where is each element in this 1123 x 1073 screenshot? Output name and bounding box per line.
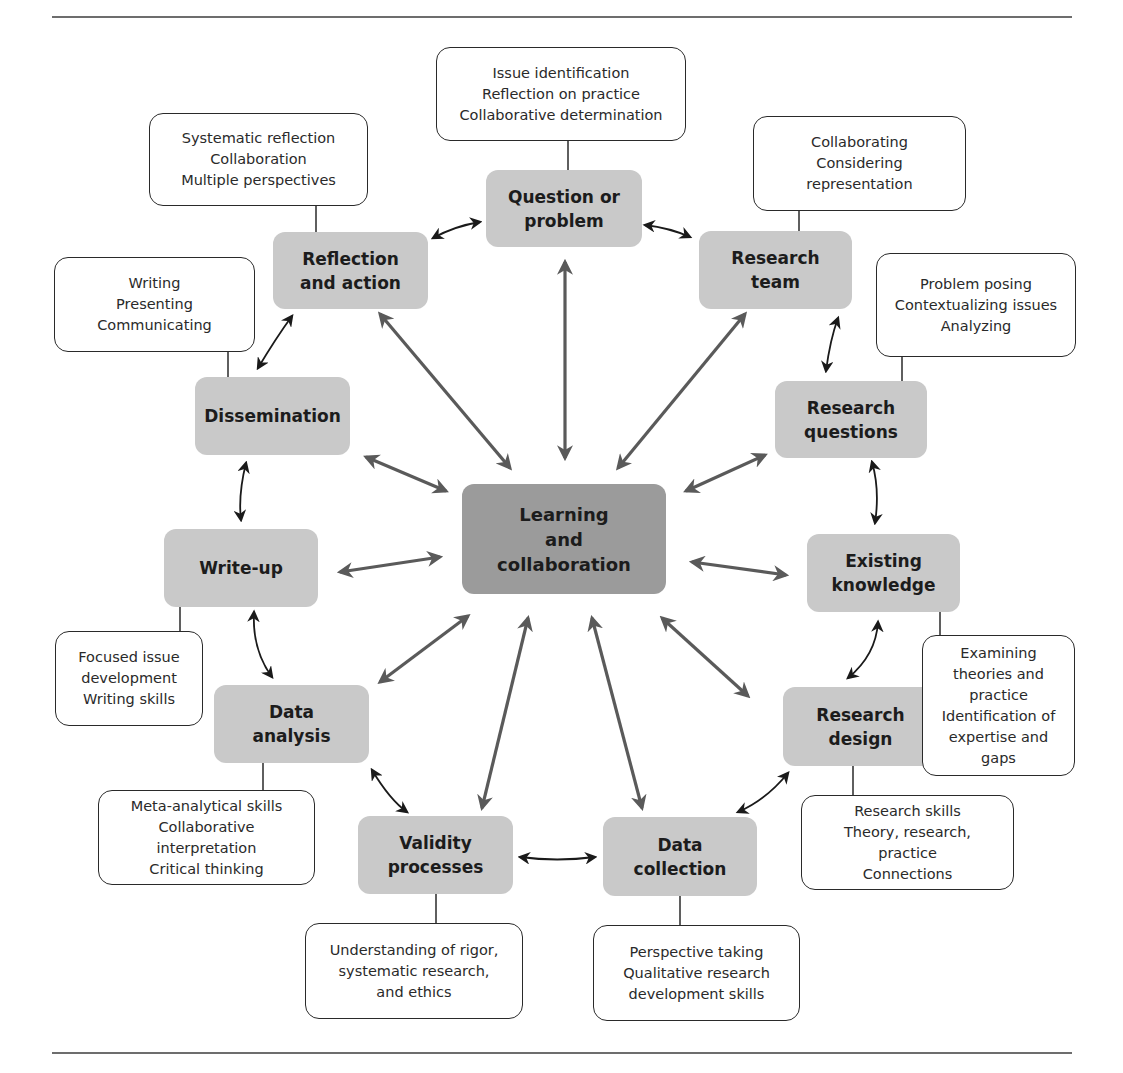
note-dissemination: Writing Presenting Communicating	[54, 257, 255, 352]
note-research-design: Research skills Theory, research, practi…	[801, 795, 1014, 890]
note-existing-knowledge: Examining theories and practice Identifi…	[922, 635, 1075, 776]
node-reflection-and-action: Reflection and action	[273, 232, 428, 309]
note-write-up: Focused issue development Writing skills	[55, 631, 203, 726]
note-validity-processes: Understanding of rigor, systematic resea…	[305, 923, 523, 1019]
node-research-design: Research design	[783, 687, 938, 766]
node-data-analysis: Data analysis	[214, 685, 369, 763]
node-dissemination: Dissemination	[195, 377, 350, 455]
node-learning-and-collaboration: Learning and collaboration	[462, 484, 666, 594]
node-existing-knowledge: Existing knowledge	[807, 534, 960, 612]
node-data-collection: Data collection	[603, 817, 757, 896]
note-data-collection: Perspective taking Qualitative research …	[593, 925, 800, 1021]
node-write-up: Write-up	[164, 529, 318, 607]
note-research-team: Collaborating Considering representation	[753, 116, 966, 211]
note-research-questions: Problem posing Contextualizing issues An…	[876, 253, 1076, 357]
node-research-questions: Research questions	[775, 381, 927, 458]
node-question-or-problem: Question or problem	[486, 170, 642, 247]
node-validity-processes: Validity processes	[358, 816, 513, 894]
note-reflection-and-action: Systematic reflection Collaboration Mult…	[149, 113, 368, 206]
note-question-or-problem: Issue identification Reflection on pract…	[436, 47, 686, 141]
node-research-team: Research team	[699, 231, 852, 309]
note-data-analysis: Meta-analytical skills Collaborative int…	[98, 790, 315, 885]
